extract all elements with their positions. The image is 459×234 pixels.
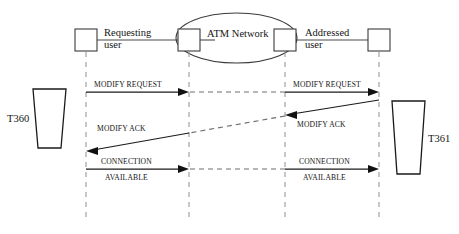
label-terminal-t360: T360 [7, 113, 29, 124]
label-connection-available-right-line1: CONNECTION [299, 157, 350, 166]
label-modify-request-right: MODIFY REQUEST [293, 80, 361, 89]
terminal-shape-t361 [392, 101, 425, 174]
dashed-modify-ack-core [189, 116, 285, 133]
label-requesting-user-line1: Requesting [104, 27, 152, 38]
label-requesting-user-line2: user [104, 39, 122, 50]
label-modify-ack-right: MODIFY ACK [297, 120, 346, 129]
arrow-head-connection-available-right [368, 165, 379, 173]
arrow-head-modify-ack-left [86, 147, 98, 155]
label-modify-ack-left: MODIFY ACK [97, 124, 146, 133]
label-connection-available-left-line1: CONNECTION [101, 157, 152, 166]
arrow-head-modify-ack-right [285, 111, 297, 119]
label-addressed-user-line1: Addressed [305, 27, 350, 38]
label-terminal-t361: T361 [428, 133, 450, 144]
arrow-modify-ack-right [292, 100, 379, 114]
node-box-addressed-user [368, 29, 390, 51]
arrow-head-modify-request-right [368, 88, 379, 96]
label-addressed-user-line2: user [305, 39, 323, 50]
diagram-canvas: Requesting user Addressed user ATM Netwo… [0, 0, 459, 234]
node-box-network-ingress [178, 29, 200, 51]
node-box-requesting-user [75, 29, 97, 51]
arrow-head-connection-available-left [178, 165, 189, 173]
label-atm-network: ATM Network [207, 28, 269, 39]
arrow-head-modify-request-left [178, 88, 189, 96]
label-connection-available-left-line2: AVAILABLE [105, 173, 148, 182]
node-box-network-egress [274, 29, 296, 51]
label-connection-available-right-line2: AVAILABLE [303, 173, 346, 182]
label-modify-request-left: MODIFY REQUEST [94, 80, 162, 89]
arrow-modify-ack-left [93, 133, 189, 150]
terminal-shape-t360 [33, 89, 66, 148]
atm-sequence-diagram: Requesting user Addressed user ATM Netwo… [0, 0, 459, 234]
